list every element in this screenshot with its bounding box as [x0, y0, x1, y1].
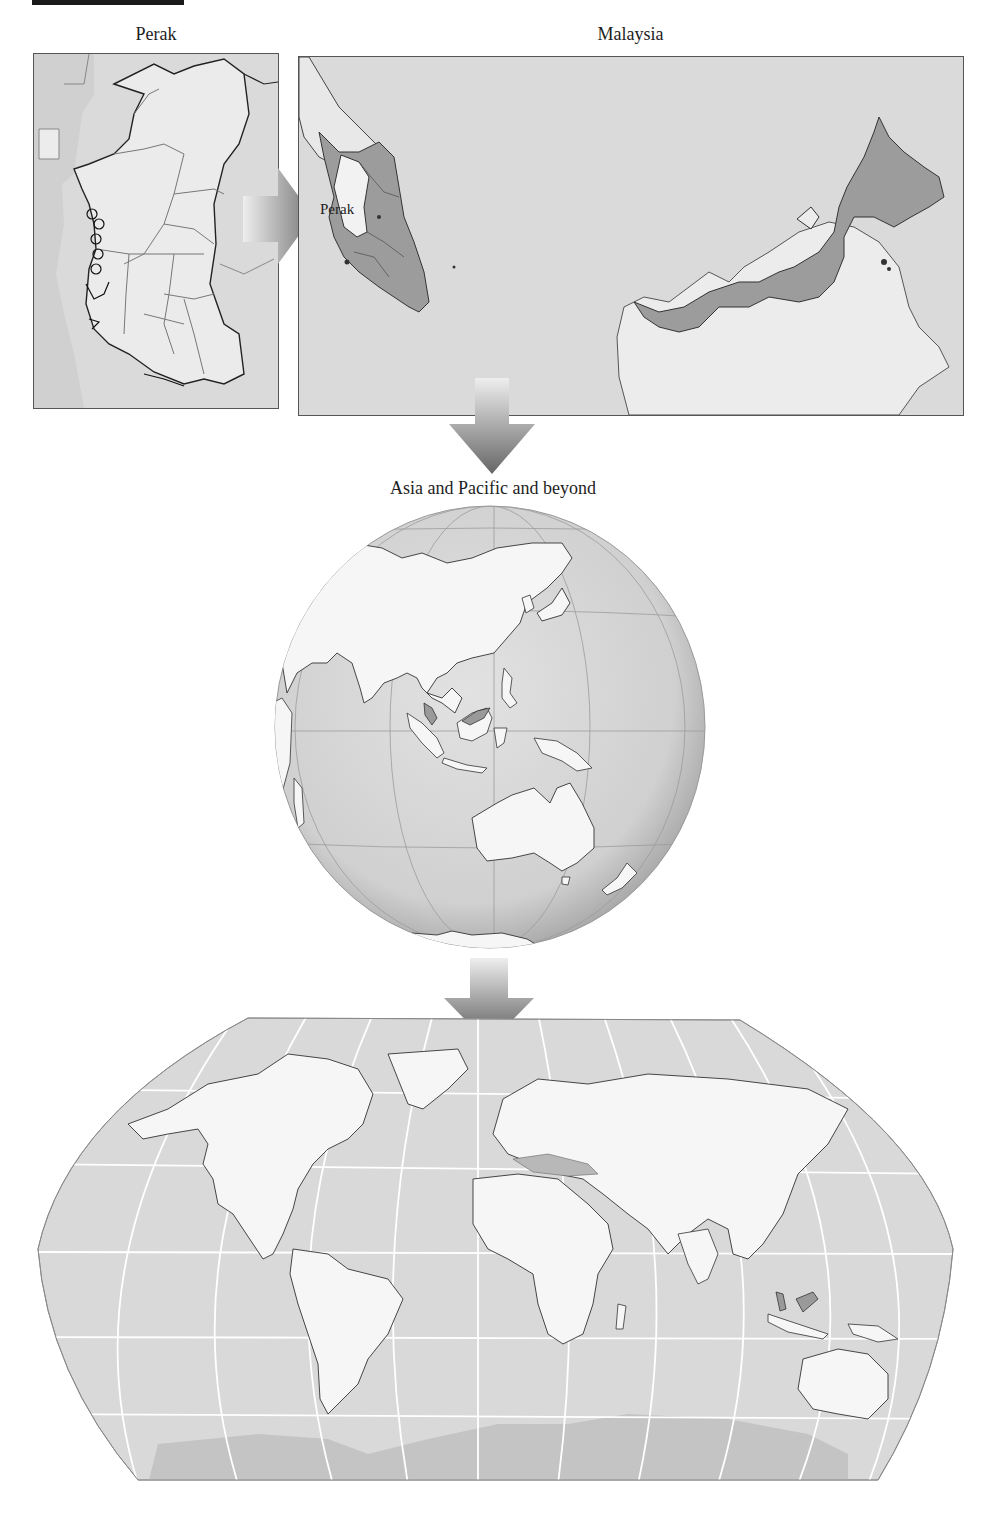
perak-title: Perak	[32, 24, 280, 45]
malaysia-map-panel: Perak	[298, 56, 964, 416]
arrow-down-icon	[447, 378, 537, 476]
malaysia-map: Perak	[299, 57, 963, 415]
svg-text:Perak: Perak	[320, 201, 355, 217]
header-bar	[32, 0, 184, 5]
world-map	[28, 1014, 963, 1484]
globe-map	[272, 503, 712, 951]
perak-map	[34, 54, 278, 408]
globe-title: Asia and Pacific and beyond	[300, 478, 686, 499]
malaysia-title: Malaysia	[298, 24, 963, 45]
